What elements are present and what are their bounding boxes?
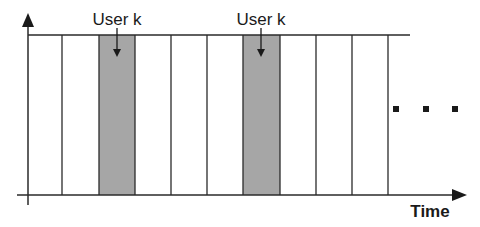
continuation-dots-icon [393, 106, 458, 112]
x-axis-arrow-icon [452, 189, 467, 201]
user-k-slot-1 [99, 35, 135, 195]
user-k-slot-2 [243, 35, 280, 195]
y-axis-arrow-icon [22, 13, 34, 27]
user-label-2: User k [236, 10, 286, 29]
user-label-1: User k [92, 10, 142, 29]
tdma-diagram: User k User k Time [0, 0, 480, 227]
x-axis-label: Time [410, 202, 449, 221]
